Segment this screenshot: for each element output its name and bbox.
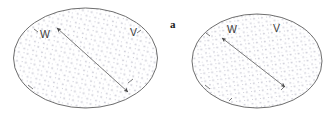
- left-ellipse-fill: [14, 8, 158, 108]
- right-ellipse-fill: [192, 14, 322, 108]
- figure-canvas: W V a W V: [0, 0, 332, 122]
- left-domain-ellipse-group: W V: [14, 8, 158, 108]
- left-label-v: V: [130, 26, 137, 38]
- right-domain-ellipse-group: W V: [192, 14, 322, 108]
- left-label-w: W: [40, 28, 50, 40]
- right-label-v: V: [273, 22, 280, 34]
- figure-container: W V a W V: [0, 0, 332, 122]
- right-label-w: W: [227, 23, 237, 35]
- panel-label-a: a: [170, 18, 176, 30]
